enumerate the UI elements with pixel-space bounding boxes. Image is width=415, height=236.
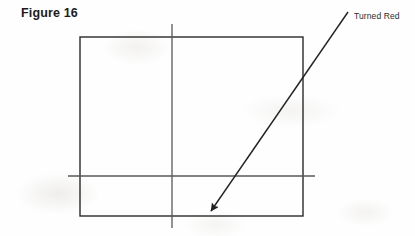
callout-label: Turned Red bbox=[354, 11, 400, 21]
figure-canvas: Figure 16 Turned Red bbox=[0, 0, 415, 236]
figure-vector-layer bbox=[0, 0, 415, 236]
callout-arrow bbox=[211, 12, 348, 211]
